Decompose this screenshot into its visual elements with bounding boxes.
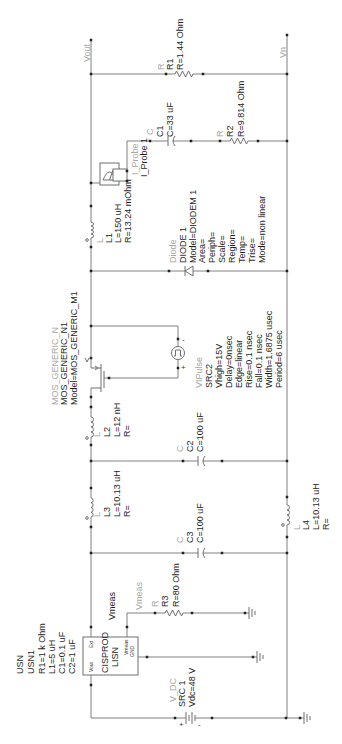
component-param-label: R=9.814 Ohm <box>236 81 246 137</box>
component-param-label: Fall=0.1 nsec <box>254 334 264 388</box>
inductor-icon <box>287 505 290 525</box>
component-type-label: C <box>175 536 185 543</box>
junction-dot <box>146 656 149 659</box>
junction-dot <box>90 444 93 447</box>
ground-icon <box>257 651 263 663</box>
lisn-pin-vout: Vout <box>88 661 94 672</box>
inductor-l1[interactable] <box>86 222 94 241</box>
diode-d1[interactable] <box>185 266 193 276</box>
component-type-label: Diode <box>168 239 178 263</box>
junction-dot <box>126 170 129 173</box>
pulse-source-icon <box>172 347 185 360</box>
component-param-label: Scale= <box>217 235 227 263</box>
junction-dot <box>286 536 289 539</box>
component-param-label: C1=0.1 uF <box>57 631 67 674</box>
lisn-block-subtitle: LISN <box>110 647 120 667</box>
wire-vpulse-loop[interactable] <box>91 326 178 378</box>
component-type-label: VtPulse <box>194 357 204 388</box>
ground-lisn[interactable] <box>257 651 263 663</box>
junction-dot <box>286 140 289 143</box>
resistor-icon <box>230 138 248 144</box>
junction-dot <box>177 338 180 341</box>
dc-source-src1[interactable]: + - <box>179 712 201 729</box>
resistor-icon <box>175 71 193 77</box>
junction-dot <box>126 626 129 629</box>
pulse-source-src2[interactable]: - + <box>172 335 187 372</box>
probe-terminal-block <box>113 169 127 181</box>
component-param-label: C2=1 uF <box>67 639 77 674</box>
component-param-label: Edge=linear <box>234 340 244 388</box>
r3-labels: R R3 R=80 Ohm <box>150 563 181 607</box>
junction-dot <box>154 612 157 615</box>
polarity-dot-icon <box>282 524 285 527</box>
inductor-icon <box>91 222 94 238</box>
component-instance-label: MOS_GENERIC_N1 <box>59 322 69 405</box>
component-instance-label: SRC2 <box>204 364 214 388</box>
dc-plus-sign: + <box>179 720 184 729</box>
inductor-l4[interactable] <box>282 505 290 526</box>
junction-dot <box>190 140 193 143</box>
component-type-label: C <box>175 445 185 452</box>
junction-dot <box>286 460 289 463</box>
junction-dot <box>219 140 222 143</box>
component-param-label: C=100 uF <box>195 412 205 452</box>
junction-dot <box>90 526 93 529</box>
junction-dot <box>174 717 177 720</box>
vtpulse-labels: VtPulse SRC2 Vhigh=15V Delay=0nsec Edge=… <box>194 310 284 388</box>
component-instance-label: DIODE 1 <box>178 227 188 263</box>
component-param-label: L=12 nH <box>112 403 122 437</box>
component-type-label: L <box>92 512 102 517</box>
junction-dot <box>90 487 93 490</box>
junction-dot <box>90 684 93 687</box>
resistor-icon <box>165 610 183 616</box>
polarity-dot-icon <box>86 437 89 440</box>
diode-icon <box>185 266 193 276</box>
wire-c1-branch[interactable] <box>127 141 287 171</box>
junction-dot <box>211 717 214 720</box>
component-instance-label: SRC 1 <box>177 680 187 707</box>
component-type-label: R <box>215 130 225 137</box>
c1-labels: C C1 C=33 uF <box>145 102 175 137</box>
schematic-drawing[interactable]: - + + - <box>0 0 342 744</box>
polarity-dot-icon <box>86 517 89 520</box>
component-param-label: Model=MOS_GENERIC_M1 <box>69 291 79 405</box>
r1-labels: R R1 R=1.44 Ohm <box>156 19 185 70</box>
component-param-label: Vhigh=15V <box>214 344 224 388</box>
junction-dot <box>90 406 93 409</box>
resistor-r3[interactable] <box>165 610 183 616</box>
component-param-label: Vdc=48 V <box>187 668 197 707</box>
component-instance-label: L2 <box>102 427 112 437</box>
component-param-label: C=100 uF <box>195 503 205 543</box>
pulse-plus-sign: + <box>181 363 186 372</box>
component-param-label: L=150 uH <box>113 204 123 243</box>
r2-labels: R R2 R=9.814 Ohm <box>215 81 246 137</box>
l1-labels: L L1 L=150 uH R=13.24 mOhm <box>95 179 133 243</box>
wire-vmeas[interactable] <box>127 613 249 637</box>
lisn-pin-ext: Ext <box>88 640 94 648</box>
resistor-r1[interactable] <box>175 71 193 77</box>
junction-dot <box>90 270 93 273</box>
mosfet-icon <box>91 364 104 392</box>
component-param-label: Region= <box>227 229 237 263</box>
component-param-label: L=10.13 uH <box>311 483 321 530</box>
probe-labels: I_Probe I_Probe 1 <box>130 138 149 177</box>
junction-dot <box>221 552 224 555</box>
l3-labels: L L3 L=10.13 uH R= <box>92 470 132 517</box>
component-param-label: Rise=0.1 nsec <box>244 330 254 388</box>
mosfet-n1[interactable] <box>85 358 104 392</box>
c3-labels: C C3 C=100 uF <box>175 503 205 543</box>
net-label-vn: Vn <box>278 47 288 58</box>
junction-dot <box>221 460 224 463</box>
polarity-dot-icon <box>86 239 89 242</box>
ground-bottom[interactable] <box>304 712 310 724</box>
junction-dot <box>90 325 93 328</box>
component-param-label: R= <box>321 518 331 530</box>
pulse-waveform-icon <box>174 350 182 356</box>
ground-icon <box>304 712 310 724</box>
junction-dot <box>286 73 289 76</box>
schematic-canvas[interactable]: - + + - <box>0 0 342 744</box>
resistor-r2[interactable] <box>230 138 248 144</box>
ground-r3[interactable] <box>249 607 255 619</box>
junction-dot <box>90 460 93 463</box>
lisn-labels: USN USN1 R1=1 k Ohm L1=5 uH C1=0.1 uF C2… <box>15 623 135 674</box>
